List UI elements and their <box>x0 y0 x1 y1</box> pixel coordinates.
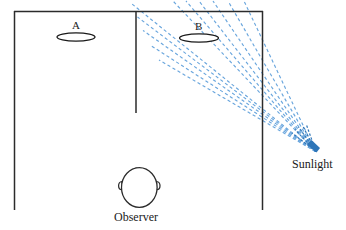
head-outline-shape <box>122 168 158 208</box>
surface-b-ellipse <box>180 34 219 42</box>
observer-label: Observer <box>114 211 158 223</box>
surface-a-label: A <box>72 20 80 31</box>
sun-ray <box>159 60 316 152</box>
sun-rays-group <box>132 1 316 152</box>
sun-ray <box>186 1 316 152</box>
sun-ray <box>138 17 316 152</box>
surface-a-ellipse <box>57 33 95 41</box>
surface-b-label: B <box>195 21 202 32</box>
optics-diagram-figure: A B Observer Sunlight <box>0 0 346 230</box>
sun-ray <box>132 4 316 152</box>
observer-head-group <box>119 168 160 208</box>
sun-ray <box>228 1 316 152</box>
diagram-canvas <box>0 0 346 230</box>
sun-ray <box>143 31 316 152</box>
sunlight-label: Sunlight <box>292 158 333 170</box>
